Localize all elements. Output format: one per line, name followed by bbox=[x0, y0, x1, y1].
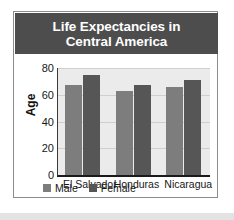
bar-female-el-salvador bbox=[83, 75, 100, 175]
legend-swatch-icon bbox=[89, 184, 97, 192]
bar-group: Honduras bbox=[114, 68, 155, 175]
chart-card: Life Expectancies in Central America Age… bbox=[13, 11, 218, 198]
legend-item-male: Male bbox=[43, 182, 78, 194]
y-axis-title: Age bbox=[24, 82, 38, 128]
x-axis-tick-label: Nicaragua bbox=[164, 178, 205, 190]
bar-male-honduras bbox=[116, 91, 133, 175]
chart-title: Life Expectancies in Central America bbox=[53, 19, 181, 49]
bar-group: El Salvador bbox=[63, 68, 104, 175]
bar-male-el-salvador bbox=[65, 85, 82, 175]
bar-female-honduras bbox=[134, 85, 151, 175]
legend-swatch-icon bbox=[43, 184, 51, 192]
chart-title-banner: Life Expectancies in Central America bbox=[15, 13, 218, 54]
bars-layer: El SalvadorHondurasNicaragua bbox=[58, 68, 210, 175]
bottom-page-strip bbox=[0, 213, 234, 220]
y-axis-tick-label: 0 bbox=[48, 169, 54, 181]
y-axis-tick-label: 80 bbox=[42, 62, 54, 74]
y-axis-tick-label: 20 bbox=[42, 142, 54, 154]
legend-label: Male bbox=[55, 182, 78, 194]
legend-label: Female bbox=[101, 182, 136, 194]
bar-male-nicaragua bbox=[166, 87, 183, 175]
y-axis-tick-label: 40 bbox=[42, 116, 54, 128]
bar-female-nicaragua bbox=[184, 80, 201, 175]
plot-area: 020406080 El SalvadorHondurasNicaragua bbox=[57, 68, 210, 177]
chart-body: Age 020406080 El SalvadorHondurasNicarag… bbox=[15, 54, 218, 198]
legend-item-female: Female bbox=[89, 182, 136, 194]
chart-legend: MaleFemale bbox=[43, 182, 136, 194]
y-axis-tick-label: 60 bbox=[42, 89, 54, 101]
chart-screenshot: Life Expectancies in Central America Age… bbox=[0, 0, 234, 220]
bar-group: Nicaragua bbox=[164, 68, 205, 175]
